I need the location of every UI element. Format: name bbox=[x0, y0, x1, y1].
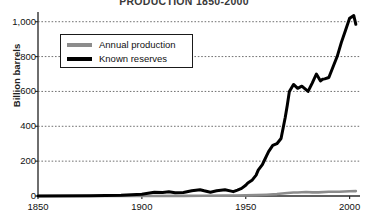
legend-swatch-known-reserves bbox=[67, 57, 92, 61]
legend-label-known-reserves: Known reserves bbox=[99, 54, 167, 64]
plot-area bbox=[0, 0, 368, 219]
legend-item-known-reserves: Known reserves bbox=[67, 52, 167, 66]
chart-container: PRODUCTION 1850-2000 Billion barrels 020… bbox=[0, 0, 368, 219]
legend-label-annual-production: Annual production bbox=[99, 40, 176, 50]
legend: Annual production Known reserves bbox=[60, 34, 193, 68]
legend-swatch-annual-production bbox=[67, 43, 92, 47]
legend-item-annual-production: Annual production bbox=[67, 38, 176, 52]
